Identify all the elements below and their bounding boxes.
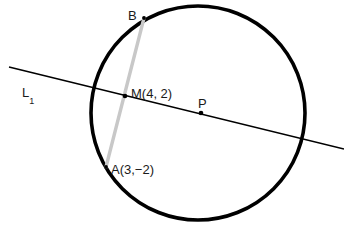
point-b-label: B: [128, 9, 137, 22]
point-b-marker: [142, 16, 146, 20]
point-m-label: M(4, 2): [131, 87, 172, 100]
line-l1-label-subscript: 1: [29, 96, 34, 106]
figure-canvas: [0, 0, 344, 225]
point-p-label: P: [198, 97, 207, 110]
line-l1-label: L1: [22, 86, 34, 103]
secant-line-l1: [9, 67, 344, 149]
point-p-marker: [199, 111, 204, 116]
point-m-marker: [123, 94, 128, 99]
geometry-figure: L1 B M(4, 2) P A(3,−2): [0, 0, 344, 225]
point-a-marker: [104, 165, 108, 169]
point-a-label: A(3,−2): [111, 163, 154, 176]
